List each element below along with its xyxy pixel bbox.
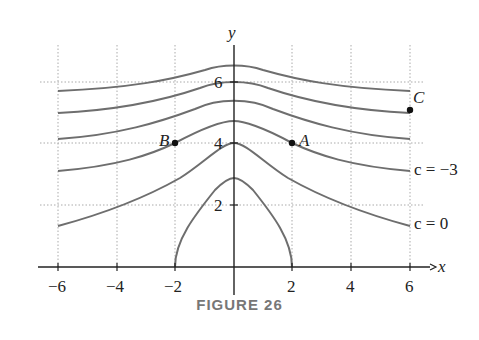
x-tick-label: −6 — [48, 277, 66, 296]
annotation-c-zero: c = 0 — [414, 214, 448, 233]
annotation-c-minus3: c = −3 — [414, 160, 458, 179]
point-c — [407, 107, 413, 113]
x-tick-label: 4 — [346, 277, 355, 296]
x-axis-arrow-icon — [430, 264, 436, 270]
point-a-label: A — [298, 131, 310, 150]
x-axis-label: x — [437, 257, 446, 276]
x-tick-label: −2 — [164, 277, 182, 296]
y-tick-label: 4 — [214, 134, 223, 153]
point-c-label: C — [413, 88, 425, 107]
x-tick-label: −4 — [106, 277, 125, 296]
y-tick-label: 6 — [214, 73, 223, 92]
x-tick-label: 6 — [405, 277, 414, 296]
y-tick-label: 2 — [214, 196, 223, 215]
point-a — [289, 140, 295, 146]
grid — [40, 45, 425, 267]
point-b-label: B — [159, 131, 170, 150]
point-b — [172, 140, 178, 146]
x-tick-label: 2 — [287, 277, 296, 296]
figure-caption: FIGURE 26 — [0, 296, 479, 313]
y-axis-label: y — [226, 23, 236, 42]
contour-plot: −6 −4 −2 2 4 6 2 4 6 x y A B C c = −3 c … — [0, 0, 479, 340]
